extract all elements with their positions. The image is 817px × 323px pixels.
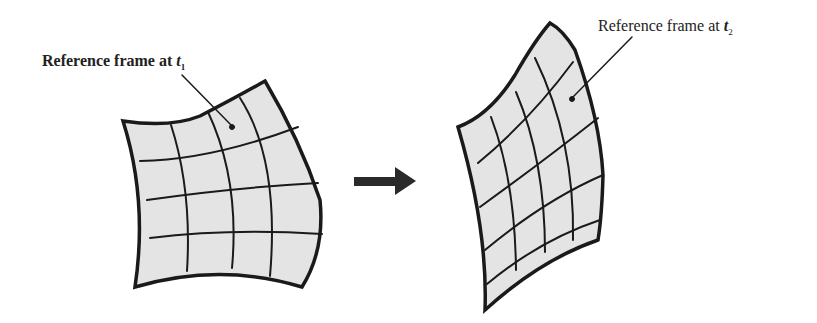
arrow-right-icon bbox=[354, 167, 416, 195]
reference-frame-t2 bbox=[458, 23, 632, 310]
reference-frame-t1 bbox=[123, 75, 322, 287]
diagram-canvas bbox=[0, 0, 817, 323]
